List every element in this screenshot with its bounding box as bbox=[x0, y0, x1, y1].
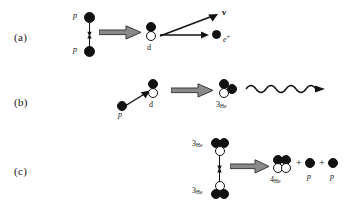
particle-label-he3-b: 3He bbox=[216, 100, 226, 109]
particle-he4-neutron-2 bbox=[281, 163, 291, 173]
particle-label-deuteron-b: d bbox=[149, 100, 153, 109]
particle-positron-a bbox=[212, 30, 221, 39]
particle-label-proton-c-1: p bbox=[307, 172, 311, 181]
plus-operator-1: + bbox=[296, 157, 302, 168]
particle-proton-c-1 bbox=[305, 158, 315, 168]
row-label-b: (b) bbox=[14, 96, 28, 108]
motion-arrow-a-downward bbox=[84, 23, 96, 47]
reaction-arrow-b bbox=[171, 83, 214, 98]
particle-label-proton-a-bottom: p bbox=[73, 45, 77, 54]
particle-label-proton-c-2: p bbox=[330, 172, 334, 181]
row-label-c: (c) bbox=[14, 165, 27, 177]
photon-wave-b bbox=[245, 80, 327, 96]
particle-he3-c-bottom-proton-2 bbox=[219, 189, 229, 199]
particle-proton-a-top bbox=[84, 12, 95, 23]
particle-proton-c-2 bbox=[328, 158, 338, 168]
particle-label-he3-c-bottom: 3He bbox=[192, 186, 202, 195]
particle-proton-a-bottom bbox=[84, 46, 95, 57]
particle-label-deuteron-a: d bbox=[147, 43, 151, 52]
particle-deuteron-a-neutron bbox=[146, 31, 156, 41]
motion-arrow-c-converging bbox=[214, 156, 226, 182]
pp-chain-diagram: (a) p p d ν e+ bbox=[0, 0, 346, 208]
particle-label-positron-a: e+ bbox=[223, 34, 230, 44]
reaction-arrow-a bbox=[99, 25, 142, 40]
particle-label-proton-b: p bbox=[118, 110, 122, 119]
particle-he3-c-top-neutron bbox=[215, 146, 225, 156]
particle-he3-b-neutron bbox=[219, 88, 229, 98]
particle-label-proton-a-top: p bbox=[73, 11, 77, 20]
particle-label-he3-c-top: 3He bbox=[192, 139, 202, 148]
row-label-a: (a) bbox=[14, 31, 27, 43]
plus-operator-2: + bbox=[319, 157, 325, 168]
reaction-arrow-c bbox=[230, 159, 270, 174]
particle-label-he4: 4He bbox=[270, 175, 280, 184]
motion-arrow-positron-a bbox=[160, 30, 212, 40]
particle-label-neutrino-a: ν bbox=[222, 7, 226, 17]
particle-deuteron-b-neutron bbox=[148, 88, 158, 98]
